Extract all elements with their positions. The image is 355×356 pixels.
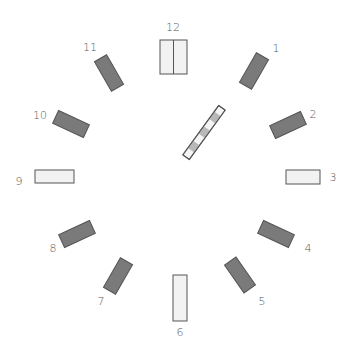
- center-striped-bar: [183, 105, 225, 159]
- label-10: 10: [33, 109, 47, 122]
- label-3: 3: [330, 171, 337, 184]
- label-7: 7: [98, 295, 105, 308]
- marker-9: [35, 170, 74, 183]
- marker-8: [59, 220, 96, 247]
- marker-11: [94, 55, 123, 91]
- marker-3: [286, 170, 320, 184]
- label-5: 5: [259, 295, 266, 308]
- marker-6: [173, 275, 187, 321]
- marker-4: [258, 220, 295, 247]
- label-9: 9: [16, 175, 23, 188]
- label-6: 6: [177, 326, 184, 339]
- label-12: 12: [166, 21, 180, 34]
- marker-12: [160, 40, 187, 74]
- marker-7: [103, 258, 132, 294]
- label-11: 11: [83, 41, 97, 54]
- label-4: 4: [305, 242, 312, 255]
- label-8: 8: [50, 242, 57, 255]
- clock-diagram: 12 1 2 3 4 5 6 7 8 9 10 11: [0, 0, 355, 356]
- label-2: 2: [310, 108, 317, 121]
- marker-1: [239, 53, 268, 89]
- label-1: 1: [273, 42, 280, 55]
- marker-2: [270, 111, 307, 138]
- marker-10: [53, 110, 90, 137]
- marker-5: [225, 257, 256, 293]
